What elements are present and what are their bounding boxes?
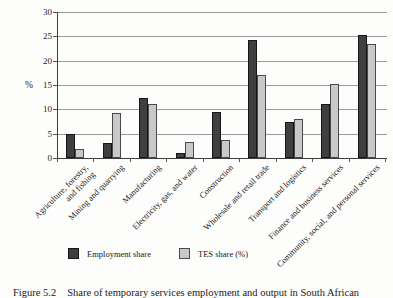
- x-tick-8: [349, 158, 350, 162]
- bar-tes-0: [75, 149, 84, 158]
- bar-employment-1: [103, 143, 112, 158]
- bar-employment-7: [321, 104, 330, 158]
- bar-tes-5: [257, 75, 266, 158]
- bar-tes-6: [294, 119, 303, 158]
- legend: Employment share TES share (%): [68, 248, 248, 259]
- bar-employment-0: [66, 134, 75, 158]
- bar-employment-2: [139, 98, 148, 158]
- bar-tes-2: [148, 104, 157, 158]
- bar-tes-1: [112, 113, 121, 158]
- x-tick-5: [239, 158, 240, 162]
- bar-employment-8: [358, 35, 367, 158]
- legend-item-tes-share: TES share (%): [179, 248, 248, 259]
- bar-tes-7: [330, 84, 339, 158]
- bar-tes-8: [367, 44, 376, 158]
- legend-item-employment-share: Employment share: [68, 248, 151, 259]
- y-tick-label-25: 25: [30, 31, 52, 41]
- y-tick-label-0: 0: [30, 153, 52, 163]
- x-category-label-3: Electricity, gas, and water: [130, 163, 199, 232]
- bar-employment-6: [285, 122, 294, 158]
- x-tick-1: [93, 158, 94, 162]
- y-tick-label-5: 5: [30, 129, 52, 139]
- bar-tes-3: [185, 142, 194, 158]
- gridline-30: [57, 12, 387, 13]
- y-axis-line: [57, 12, 58, 158]
- x-tick-7: [312, 158, 313, 162]
- x-axis-line: [57, 158, 387, 159]
- x-tick-0: [57, 158, 58, 162]
- bar-tes-4: [221, 140, 230, 158]
- x-tick-4: [203, 158, 204, 162]
- book-page-figure: 051015202530Agriculture, forestry, and f…: [0, 0, 393, 298]
- gridline-25: [57, 36, 387, 37]
- y-tick-label-15: 15: [30, 80, 52, 90]
- gridline-20: [57, 61, 387, 62]
- figure-caption-number: Figure 5.2: [13, 287, 56, 298]
- y-tick-label-30: 30: [30, 7, 52, 17]
- legend-swatch-tes-share: [179, 248, 190, 259]
- figure-caption-text: Share of temporary services employment a…: [67, 287, 359, 298]
- bar-employment-5: [248, 40, 257, 158]
- legend-label-employment-share: Employment share: [87, 249, 151, 259]
- legend-label-tes-share: TES share (%): [198, 249, 248, 259]
- legend-swatch-employment-share: [68, 248, 79, 259]
- figure-caption: Figure 5.2Share of temporary services em…: [13, 287, 359, 298]
- y-axis-label: %: [25, 80, 33, 90]
- x-tick-9: [385, 158, 386, 162]
- x-tick-3: [166, 158, 167, 162]
- y-tick-label-10: 10: [30, 104, 52, 114]
- bar-employment-3: [176, 153, 185, 158]
- y-tick-label-20: 20: [30, 56, 52, 66]
- x-tick-6: [276, 158, 277, 162]
- x-category-label-5: Wholesale and retail trade: [203, 163, 273, 233]
- x-tick-2: [130, 158, 131, 162]
- bar-employment-4: [212, 112, 221, 158]
